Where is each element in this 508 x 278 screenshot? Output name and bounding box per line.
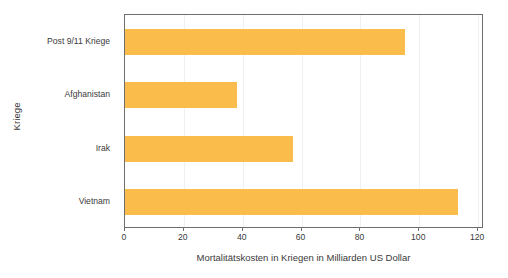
bar xyxy=(125,136,293,162)
x-tick-label: 100 xyxy=(411,232,425,242)
x-tick-mark xyxy=(183,228,184,231)
x-tick-label: 120 xyxy=(470,232,484,242)
y-tick-label: Vietnam xyxy=(79,196,110,206)
x-tick-mark xyxy=(124,228,125,231)
x-tick-mark xyxy=(242,228,243,231)
plot-area xyxy=(124,14,483,228)
x-axis-ticks: 020406080100120 xyxy=(124,228,483,246)
bar-chart-figure: Kriege Post 9/11 KriegeAfghanistanIrakVi… xyxy=(0,0,508,278)
x-tick-mark xyxy=(301,228,302,231)
bar xyxy=(125,189,458,215)
y-axis-tick-labels: Post 9/11 KriegeAfghanistanIrakVietnam xyxy=(18,14,116,228)
x-tick-mark xyxy=(477,228,478,231)
y-tick-label: Irak xyxy=(96,143,110,153)
gridline xyxy=(478,15,479,227)
x-tick-label: 60 xyxy=(296,232,306,242)
bar xyxy=(125,29,405,55)
x-tick-mark xyxy=(418,228,419,231)
bar xyxy=(125,82,237,108)
x-tick-label: 20 xyxy=(178,232,188,242)
x-tick-label: 80 xyxy=(355,232,365,242)
y-tick-label: Post 9/11 Kriege xyxy=(47,36,110,46)
x-tick-mark xyxy=(359,228,360,231)
x-tick-label: 40 xyxy=(237,232,247,242)
x-axis-title: Mortalitätskosten in Kriegen in Milliard… xyxy=(124,252,483,263)
x-tick-label: 0 xyxy=(122,232,127,242)
y-tick-label: Afghanistan xyxy=(65,89,110,99)
